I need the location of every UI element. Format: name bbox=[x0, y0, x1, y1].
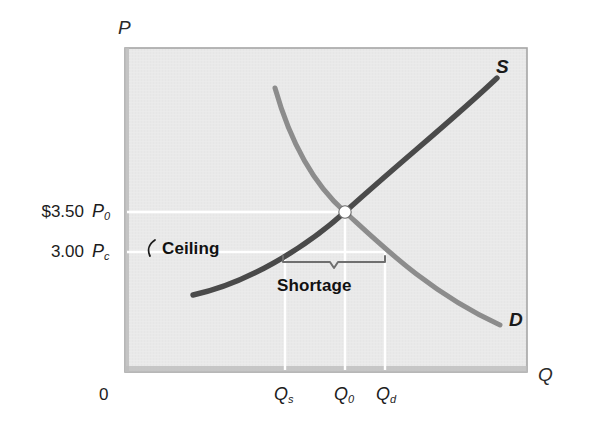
price-symbol-pc-letter: P bbox=[92, 241, 104, 261]
price-value-p0: $3.50 bbox=[22, 203, 84, 220]
x-tick-qs-subscript: s bbox=[288, 393, 294, 405]
ceiling-annotation: Ceiling bbox=[162, 240, 219, 257]
x-axis-label: Q bbox=[538, 365, 553, 384]
price-symbol-p0-subscript: 0 bbox=[104, 210, 110, 222]
supply-curve-label: S bbox=[496, 57, 509, 76]
x-tick-qd-letter: Q bbox=[376, 384, 390, 404]
plot-left-rail bbox=[125, 48, 129, 372]
equilibrium-point bbox=[339, 206, 351, 218]
x-tick-qs-letter: Q bbox=[274, 384, 288, 404]
x-tick-q0-letter: Q bbox=[334, 384, 348, 404]
demand-curve-label: D bbox=[509, 310, 523, 329]
x-tick-qs: Qs bbox=[274, 385, 294, 403]
origin-label: 0 bbox=[99, 386, 108, 403]
price-symbol-pc: Pc bbox=[92, 242, 110, 260]
x-tick-qd: Qd bbox=[376, 385, 396, 403]
plot-area-background bbox=[125, 48, 527, 372]
x-tick-q0-subscript: 0 bbox=[348, 393, 354, 405]
price-symbol-p0-letter: P bbox=[92, 201, 104, 221]
price-value-pc: 3.00 bbox=[22, 243, 84, 260]
x-tick-q0: Q0 bbox=[334, 385, 354, 403]
supply-demand-figure: P Q 0 $3.50 P0 3.00 Pc Ceiling Shortage … bbox=[0, 0, 596, 426]
x-tick-qd-subscript: d bbox=[390, 393, 396, 405]
plot-bottom-rail bbox=[125, 366, 527, 372]
price-symbol-p0: P0 bbox=[92, 202, 110, 220]
y-axis-label: P bbox=[118, 18, 131, 37]
shortage-annotation: Shortage bbox=[277, 277, 351, 294]
price-symbol-pc-subscript: c bbox=[104, 250, 110, 262]
